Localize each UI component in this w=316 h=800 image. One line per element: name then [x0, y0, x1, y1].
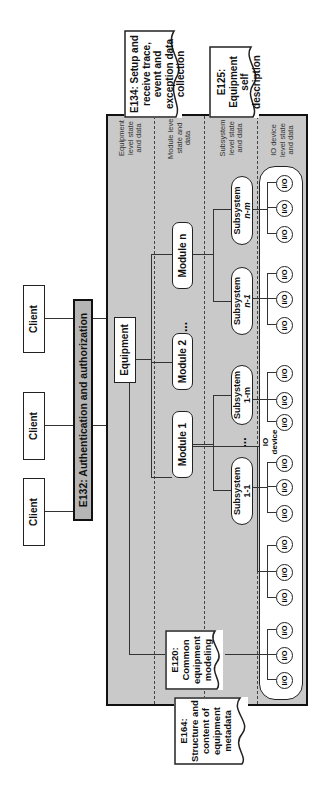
io-circle: I/O	[276, 589, 293, 606]
subsystem-line1: Subsystem	[232, 277, 242, 325]
module-bus	[151, 255, 152, 478]
auth-bar-e132: E132: Authentication and authorization	[73, 299, 93, 521]
io-circle: I/O	[276, 175, 293, 192]
io-circle: I/O	[276, 479, 293, 496]
connector	[267, 324, 276, 325]
connector	[136, 359, 151, 360]
client-box-1b: Client	[23, 285, 45, 353]
client-box-2: Client	[23, 392, 45, 460]
io-bus	[267, 630, 268, 680]
connector	[129, 383, 130, 655]
subsystem-n-m: Subsystemn-m	[231, 176, 253, 245]
connector	[267, 273, 276, 274]
doc-e125-text: E125: Equipment self description	[214, 49, 262, 115]
io-bus	[267, 546, 268, 598]
io-circle: I/O	[276, 505, 293, 522]
client-label: Client	[28, 305, 40, 333]
io-circle: I/O	[276, 564, 293, 581]
connector	[253, 298, 267, 299]
subsystem-label: Subsystemn-m	[232, 186, 253, 234]
subsystem-label: Subsystemn-1	[232, 277, 253, 325]
doc-e164: E164: Structure and content of equipment…	[174, 697, 248, 765]
subsystem-line1: Subsystem	[232, 467, 242, 515]
connector	[213, 490, 231, 491]
connector	[253, 209, 267, 210]
connector	[45, 511, 73, 512]
level-label-io-device: IO device level state and data	[260, 116, 306, 164]
subsystem-label: Subsystem1-m	[232, 371, 253, 419]
subsystem-ellipsis: ...	[231, 425, 253, 460]
client-label: Client	[28, 498, 40, 526]
connector	[45, 318, 73, 319]
doc-e120-text: E120: Common equipment modeling	[170, 632, 214, 688]
level-divider	[257, 116, 258, 704]
io-bus	[267, 183, 268, 234]
module-n-box: Module n	[172, 222, 193, 289]
io-bus	[267, 373, 268, 422]
level-label-equipment: Equipment level state and data	[110, 116, 152, 160]
doc-e125: E125: Equipment self description	[209, 46, 259, 118]
connector	[213, 209, 231, 210]
connector	[193, 446, 257, 447]
connector	[267, 372, 276, 373]
connector	[267, 545, 276, 546]
connector	[193, 444, 213, 445]
level-label-subsystem: Subsystem level state and data	[208, 116, 256, 160]
connector	[213, 301, 231, 302]
io-device-label: IO device	[262, 427, 278, 457]
connector	[267, 679, 276, 680]
subsystem-line1: Subsystem	[232, 186, 242, 234]
io-circle: I/O	[276, 200, 293, 217]
connector	[213, 396, 214, 491]
io-circle: I/O	[276, 266, 293, 283]
doc-e120: E120: Common equipment modeling	[165, 630, 223, 690]
client-label: Client	[28, 412, 40, 440]
io-circle: I/O	[276, 291, 293, 308]
io-circle: I/O	[276, 392, 293, 409]
io-circle: I/O	[276, 226, 293, 243]
connector	[267, 233, 276, 234]
subsystem-n-1: Subsystemn-1	[231, 267, 253, 335]
connector	[267, 421, 276, 422]
connector	[45, 425, 73, 426]
subsystem-1-1: Subsystem1-1	[231, 457, 253, 525]
subsystem-line2: 1-1	[242, 485, 252, 498]
doc-e134-text: E134: Setup and receive trace, event and…	[129, 33, 187, 115]
connector	[267, 462, 276, 463]
equipment-box: Equipment	[114, 317, 136, 383]
subsystem-label: Subsystem1-1	[232, 467, 253, 515]
connector	[267, 182, 276, 183]
connector	[267, 207, 276, 208]
io-circle: I/O	[276, 672, 293, 689]
connector	[267, 298, 276, 299]
connector	[253, 487, 267, 488]
connector	[213, 210, 214, 302]
module-2-box: Module 2	[172, 333, 193, 390]
io-bus	[267, 274, 268, 325]
io-circle: I/O	[276, 622, 293, 639]
io-circle: I/O	[276, 365, 293, 382]
module-1-box: Module 1	[172, 411, 193, 478]
io-circle: I/O	[276, 414, 293, 431]
doc-e134: E134: Setup and receive trace, event and…	[124, 30, 182, 118]
diagram-canvas: Client Client ... Client Client E132: Au…	[0, 0, 316, 800]
connector	[193, 254, 213, 255]
level-label-module: Module level state and data	[158, 116, 202, 160]
client-box-3: Client	[23, 478, 45, 546]
connector	[253, 399, 267, 400]
io-circle: I/O	[276, 647, 293, 664]
connector	[267, 654, 276, 655]
subsystem-line2: n-m	[242, 202, 252, 219]
connector	[257, 571, 267, 572]
connector	[257, 447, 258, 572]
io-circle: I/O	[276, 317, 293, 334]
level-divider	[204, 116, 205, 704]
connector	[267, 486, 276, 487]
level-divider	[154, 116, 155, 704]
connector	[267, 512, 276, 513]
connector	[151, 477, 172, 478]
subsystem-1-m: Subsystem1-m	[231, 365, 253, 425]
subsystem-line2: 1-m	[242, 387, 252, 403]
io-circle: I/O	[276, 455, 293, 472]
connector	[213, 395, 231, 396]
